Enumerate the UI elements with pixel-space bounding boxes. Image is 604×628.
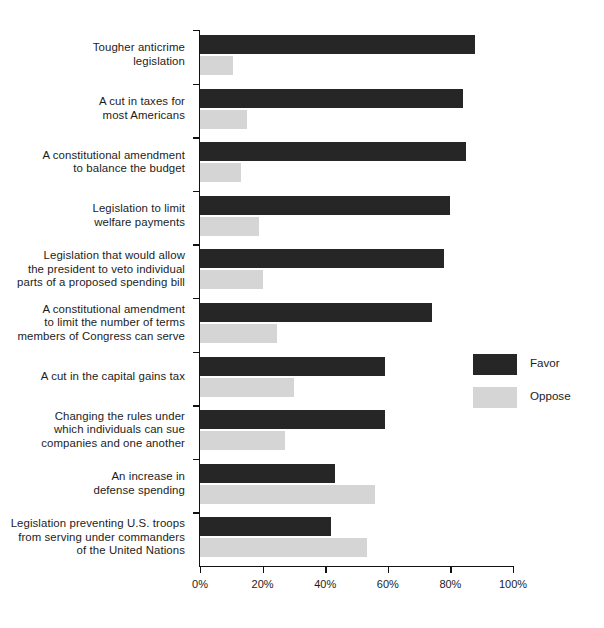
bar-favor [200,89,463,108]
category-label-line: to balance the budget [0,162,185,176]
category-label-slot: A constitutional amendmentto balance the… [0,149,185,176]
y-axis-tick [193,244,200,245]
category-label-line: Legislation preventing U.S. troops [0,517,185,531]
bar-oppose [200,270,263,289]
y-axis-tick [193,84,200,85]
y-axis-tick [193,191,200,192]
bar-oppose [200,110,247,129]
legend-label: Oppose [530,389,571,402]
horizontal-bar-chart: Tougher anticrimelegislationA cut in tax… [0,0,604,628]
category-label-line: to limit the number of terms [0,316,185,330]
x-axis-tick-label: 40% [314,578,336,590]
category-label-line: An increase in [0,470,185,484]
category-label-line: parts of a proposed spending bill [0,276,185,290]
x-axis-tick [388,566,389,573]
legend-swatch [473,354,517,375]
bar-favor [200,517,331,536]
category-label: An increase indefense spending [0,470,185,497]
category-label-line: Legislation to limit [0,202,185,216]
y-axis-tick [193,298,200,299]
legend: FavorOppose [473,352,598,418]
y-axis-tick [193,137,200,138]
bar-favor [200,464,335,483]
category-label: A cut in the capital gains tax [0,370,185,384]
x-axis-tick [325,566,326,573]
bar-oppose [200,217,259,236]
category-label-line: most Americans [0,109,185,123]
x-axis-tick-label: 80% [439,578,461,590]
bar-favor [200,142,466,161]
bar-favor [200,357,385,376]
bar-oppose [200,163,241,182]
bar-oppose [200,378,294,397]
category-label-line: companies and one another [0,437,185,451]
bar-oppose [200,431,285,450]
category-label-line: the president to veto individual [0,263,185,277]
category-label-line: which individuals can sue [0,423,185,437]
category-label-line: A constitutional amendment [0,149,185,163]
y-axis-tick [193,352,200,353]
legend-item: Oppose [473,385,598,418]
x-axis-tick [263,566,264,573]
legend-label: Favor [530,356,560,369]
x-axis-tick-label: 100% [499,578,527,590]
bar-favor [200,303,432,322]
category-label-line: defense spending [0,484,185,498]
category-label-slot: A cut in the capital gains tax [0,370,185,384]
bar-favor [200,196,450,215]
bar-oppose [200,324,277,343]
category-label-line: Tougher anticrime [0,41,185,55]
bar-favor [200,249,444,268]
x-axis-tick-label: 60% [377,578,399,590]
y-axis-tick [193,512,200,513]
category-label-line: welfare payments [0,216,185,230]
category-label: A cut in taxes formost Americans [0,95,185,122]
x-axis-tick-label: 20% [252,578,274,590]
bar-oppose [200,538,367,557]
category-label: Legislation to limitwelfare payments [0,202,185,229]
category-label-slot: A constitutional amendmentto limit the n… [0,303,185,344]
category-label-line: Changing the rules under [0,410,185,424]
legend-item: Favor [473,352,598,385]
y-axis-tick [193,405,200,406]
category-label-slot: Legislation preventing U.S. troopsfrom s… [0,517,185,558]
category-label: Legislation that would allowthe presiden… [0,249,185,290]
plot-area: 0%20%40%60%80%100% [200,30,513,566]
x-axis-line [199,566,513,567]
category-label-slot: A cut in taxes formost Americans [0,95,185,122]
category-label-line: A cut in taxes for [0,95,185,109]
bar-favor [200,410,385,429]
category-label: Tougher anticrimelegislation [0,41,185,68]
x-axis-tick [450,566,451,573]
category-label-line: of the United Nations [0,544,185,558]
category-label-slot: Legislation that would allowthe presiden… [0,249,185,290]
bar-favor [200,35,475,54]
category-label-line: legislation [0,55,185,69]
category-label: Changing the rules underwhich individual… [0,410,185,451]
x-axis-tick-label: 0% [192,578,208,590]
y-axis-tick [193,459,200,460]
x-axis-tick [513,566,514,573]
category-label-slot: An increase indefense spending [0,470,185,497]
category-label-slot: Tougher anticrimelegislation [0,41,185,68]
legend-swatch [473,387,517,408]
category-label-line: from serving under commanders [0,531,185,545]
category-label: A constitutional amendmentto limit the n… [0,303,185,344]
category-label-line: members of Congress can serve [0,330,185,344]
category-label-line: A constitutional amendment [0,303,185,317]
category-label-line: Legislation that would allow [0,249,185,263]
category-label: A constitutional amendmentto balance the… [0,149,185,176]
bar-oppose [200,485,375,504]
bar-oppose [200,56,233,75]
x-axis-tick [200,566,201,573]
y-axis-tick [193,30,200,31]
category-label-line: A cut in the capital gains tax [0,370,185,384]
category-label-slot: Legislation to limitwelfare payments [0,202,185,229]
category-label-slot: Changing the rules underwhich individual… [0,410,185,451]
category-label: Legislation preventing U.S. troopsfrom s… [0,517,185,558]
